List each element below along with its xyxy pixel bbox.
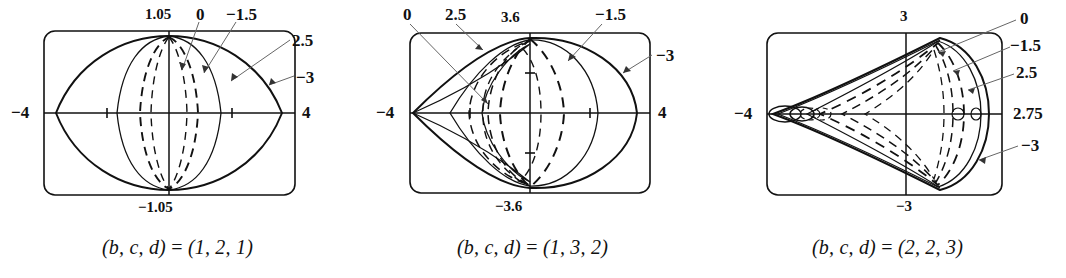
curve-label-1: −1.5 <box>226 6 257 23</box>
axis-label-right: 4 <box>658 104 667 121</box>
panel-2: 3.6 −3.6 −4 4 0 2.5 −1.5 −3 (b, c, d) = … <box>355 0 710 278</box>
axis-label-right: 4 <box>302 104 311 121</box>
curve-label-3: −3 <box>656 47 674 64</box>
figure-root: 1.05 −1.05 −4 4 0 −1.5 2.5 −3 (b, c, d) … <box>0 0 1066 278</box>
axis-label-top: 3.6 <box>501 10 520 25</box>
panel-1: 1.05 −1.05 −4 4 0 −1.5 2.5 −3 (b, c, d) … <box>0 0 355 278</box>
curve-label-2: 2.5 <box>292 32 313 49</box>
panel-caption: (b, c, d) = (2, 2, 3) <box>710 236 1065 259</box>
caption-rhs: (1, 3, 2) <box>543 236 608 258</box>
axis-label-left: −4 <box>376 104 394 121</box>
axis-label-top: 3 <box>900 9 908 24</box>
curve-label-3: −3 <box>1021 137 1039 154</box>
axis-label-bottom: −1.05 <box>138 200 173 215</box>
curve-label-0: 0 <box>1020 10 1029 27</box>
curve-label-2: 2.5 <box>1016 64 1037 81</box>
curve-label-3: −3 <box>296 69 314 86</box>
panel-caption: (b, c, d) = (1, 3, 2) <box>355 236 710 259</box>
caption-lhs: (b, c, d) <box>812 236 876 258</box>
axes <box>410 33 650 193</box>
axis-label-left: −4 <box>11 104 29 121</box>
leader-lines <box>410 24 652 104</box>
axis-label-right: 2.75 <box>1013 105 1043 122</box>
axis-label-left: −4 <box>734 105 752 122</box>
curve-label-2: −1.5 <box>595 6 626 23</box>
panel-3: 3 −3 −4 2.75 0 −1.5 2.5 −3 (b, c, d) = (… <box>710 0 1065 278</box>
curve-label-1: 2.5 <box>445 6 466 23</box>
axes <box>767 33 1002 195</box>
caption-rhs: (1, 2, 1) <box>188 236 253 258</box>
caption-rhs: (2, 2, 3) <box>898 236 963 258</box>
axis-label-bottom: −3.6 <box>495 199 522 214</box>
curve-label-0: 0 <box>403 6 412 23</box>
curve-label-1: −1.5 <box>1010 37 1041 54</box>
curve-label-0: 0 <box>196 6 205 23</box>
axis-label-bottom: −3 <box>896 199 912 214</box>
caption-lhs: (b, c, d) <box>457 236 521 258</box>
caption-lhs: (b, c, d) <box>102 236 166 258</box>
panel-caption: (b, c, d) = (1, 2, 1) <box>0 236 355 259</box>
axis-label-top: 1.05 <box>145 7 171 22</box>
axes <box>44 31 295 195</box>
